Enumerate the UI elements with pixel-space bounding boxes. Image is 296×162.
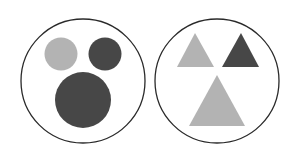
- small-dark-circle: [89, 38, 122, 71]
- small-light-triangle: [177, 33, 214, 67]
- small-light-circle: [45, 38, 78, 71]
- panel-triangles: [155, 19, 279, 143]
- small-dark-triangle: [222, 33, 259, 67]
- panel-circles: [21, 19, 145, 143]
- large-light-triangle: [189, 75, 245, 126]
- diagram-figure: [0, 0, 296, 162]
- large-dark-circle: [55, 72, 111, 128]
